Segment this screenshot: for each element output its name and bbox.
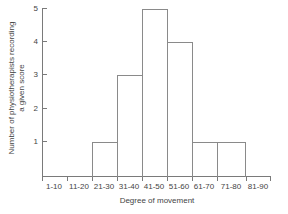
y-tick-label-5: 5 <box>24 5 38 13</box>
y-axis-title: Number of physiotherapists recording a g… <box>2 0 32 176</box>
x-tick-label-31-40: 31-40 <box>116 182 142 191</box>
bar-41-50 <box>142 9 168 177</box>
y-tick-mark-5 <box>43 8 47 9</box>
x-tick-mark-2 <box>92 177 93 181</box>
x-tick-label-71-80: 71-80 <box>218 182 244 191</box>
y-tick-label-2: 2 <box>24 105 38 113</box>
y-tick-label-1: 1 <box>24 138 38 146</box>
bar-31-40 <box>117 75 143 177</box>
x-axis-title: Degree of movement <box>42 196 272 205</box>
x-tick-mark-0 <box>42 177 43 181</box>
bar-61-70 <box>192 142 218 177</box>
x-tick-label-21-30: 21-30 <box>91 182 117 191</box>
x-tick-mark-7 <box>217 177 218 181</box>
x-tick-label-81-90: 81-90 <box>245 182 271 191</box>
bar-21-30 <box>92 142 118 177</box>
x-tick-mark-8 <box>246 177 247 181</box>
x-tick-label-41-50: 41-50 <box>141 182 167 191</box>
y-tick-label-4: 4 <box>24 38 38 46</box>
x-tick-label-11-20: 11-20 <box>66 182 92 191</box>
y-tick-mark-2 <box>43 108 47 109</box>
x-tick-mark-3 <box>117 177 118 181</box>
y-tick-mark-4 <box>43 41 47 42</box>
y-tick-mark-1 <box>43 141 47 142</box>
histogram-figure: Number of physiotherapists recording a g… <box>0 0 288 214</box>
bar-71-80 <box>217 142 246 177</box>
y-axis-line <box>42 8 43 177</box>
y-tick-label-3: 3 <box>24 71 38 79</box>
x-tick-label-1-10: 1-10 <box>41 182 67 191</box>
bar-51-60 <box>167 42 193 177</box>
x-tick-mark-6 <box>192 177 193 181</box>
x-tick-mark-4 <box>142 177 143 181</box>
x-tick-mark-5 <box>167 177 168 181</box>
y-tick-mark-3 <box>43 74 47 75</box>
x-tick-label-51-60: 51-60 <box>166 182 192 191</box>
x-tick-label-61-70: 61-70 <box>191 182 217 191</box>
x-tick-mark-1 <box>67 177 68 181</box>
x-tick-mark-9 <box>270 177 271 181</box>
